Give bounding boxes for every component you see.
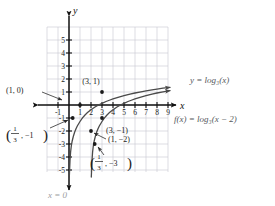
frac-second-1: , −1 bbox=[21, 131, 34, 140]
ytick-2: 2 bbox=[61, 75, 65, 84]
label-3-1: (3, 1) bbox=[82, 77, 100, 86]
ytick-3: 3 bbox=[61, 62, 65, 71]
grid-lines bbox=[47, 27, 168, 172]
x-axis-label: x bbox=[179, 100, 185, 111]
curve-label-f-log3: f(x) = log₃(x − 2) bbox=[174, 114, 237, 124]
ytick-1: 1 bbox=[61, 88, 65, 97]
label-onethird-neg1: ( 1 3 , −1 ) bbox=[6, 125, 48, 144]
point-3-neg1 bbox=[100, 116, 104, 120]
point-1-0 bbox=[78, 103, 82, 107]
ytick-5: 5 bbox=[61, 36, 65, 45]
ytick--5: -5 bbox=[59, 166, 65, 175]
point-onethird-neg3 bbox=[93, 142, 97, 146]
xtick-6: 6 bbox=[133, 108, 137, 117]
y-axis-label: y bbox=[72, 5, 78, 16]
label-onethird-neg3: ( 1 3 , −3 ) bbox=[90, 153, 132, 172]
log-graph-figure: -1 1 2 3 4 5 6 7 8 9 5 4 3 2 1 -1 -2 -3 … bbox=[0, 0, 275, 206]
xtick-1: 1 bbox=[78, 108, 82, 117]
xtick-9: 9 bbox=[166, 108, 170, 117]
label-3-neg1: (3, −1) bbox=[106, 126, 128, 135]
x-tick-labels: -1 1 2 3 4 5 6 7 8 9 bbox=[55, 108, 170, 117]
label-1-0: (1, 0) bbox=[6, 86, 24, 95]
point-3-1 bbox=[100, 90, 104, 94]
label-1-neg2: (1, −2) bbox=[108, 135, 130, 144]
frac-num-1: 1 bbox=[13, 125, 17, 133]
frac-den-3: 3 bbox=[97, 164, 101, 172]
frac-second-3: , −3 bbox=[105, 159, 118, 168]
xtick-8: 8 bbox=[155, 108, 159, 117]
paren-open-1: ( bbox=[6, 127, 11, 144]
figure-container: -1 1 2 3 4 5 6 7 8 9 5 4 3 2 1 -1 -2 -3 … bbox=[0, 0, 275, 206]
ytick--3: -3 bbox=[59, 140, 65, 149]
paren-close-1: ) bbox=[43, 127, 48, 144]
asymptote-label: x = 0 bbox=[47, 190, 68, 200]
ytick--4: -4 bbox=[59, 153, 65, 162]
leader-1-0 bbox=[42, 92, 62, 100]
frac-den-1: 3 bbox=[13, 136, 17, 144]
point-1-neg2 bbox=[89, 129, 93, 133]
point-onethird-neg1 bbox=[71, 116, 75, 120]
paren-open-3: ( bbox=[90, 155, 95, 172]
xtick-3: 3 bbox=[100, 108, 104, 117]
curve-label-y-log3: y = log₃(x) bbox=[189, 75, 229, 85]
frac-num-3: 1 bbox=[97, 153, 101, 161]
paren-close-3: ) bbox=[127, 155, 132, 172]
ytick--2: -2 bbox=[59, 127, 65, 136]
leader-lines bbox=[42, 92, 106, 155]
xtick-5: 5 bbox=[122, 108, 126, 117]
ytick-4: 4 bbox=[61, 49, 65, 58]
xtick-7: 7 bbox=[144, 108, 148, 117]
